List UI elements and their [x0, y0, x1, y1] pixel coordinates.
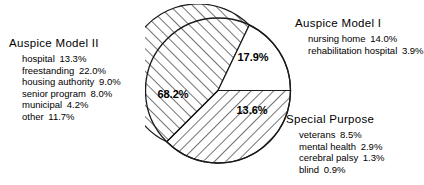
legend-row: rehabilitation hospital 3.9%: [308, 45, 424, 57]
legend-row-label: cerebral palsy: [299, 152, 358, 163]
legend-items-special-purpose: veterans 8.5% mental health 2.9% cerebra…: [286, 129, 384, 175]
legend-row: freestanding 22.0%: [22, 65, 121, 77]
pie-graphic: 17.9% 68.2% 13.6%: [145, 4, 292, 179]
legend-row: other 11.7%: [22, 111, 121, 123]
legend-title-auspice-model-two: Auspice Model II: [9, 36, 121, 50]
legend-items-auspice-model-two: hospital 13.3% freestanding 22.0% housin…: [9, 53, 121, 123]
legend-row-label: rehabilitation hospital: [308, 45, 397, 56]
legend-row-label: veterans: [299, 129, 335, 140]
legend-row-value: 9.0%: [99, 76, 121, 87]
legend-row: veterans 8.5%: [299, 129, 384, 141]
legend-row-label: housing authority: [22, 76, 94, 87]
legend-row: housing authority 9.0%: [22, 76, 121, 88]
legend-row-value: 13.3%: [59, 53, 86, 64]
pie-slice-label-special-purpose: 13.6%: [236, 104, 267, 116]
pie-slice-label-auspice-model-two: 68.2%: [157, 88, 188, 100]
legend-row-value: 14.0%: [370, 33, 397, 44]
legend-row-value: 0.9%: [324, 164, 346, 175]
legend-auspice-model-two: Auspice Model II hospital 13.3% freestan…: [9, 36, 121, 123]
legend-row: hospital 13.3%: [22, 53, 121, 65]
pie-slice-label-auspice-model-one: 17.9%: [237, 51, 268, 63]
legend-row-value: 3.9%: [402, 45, 424, 56]
legend-row: cerebral palsy 1.3%: [299, 152, 384, 164]
legend-row-label: municipal: [22, 99, 62, 110]
legend-title-auspice-model-one: Auspice Model I: [295, 16, 424, 30]
legend-row-value: 8.0%: [91, 88, 113, 99]
legend-row: blind 0.9%: [299, 164, 384, 176]
legend-special-purpose: Special Purpose veterans 8.5% mental hea…: [286, 112, 384, 175]
legend-row-label: hospital: [22, 53, 55, 64]
legend-row-value: 2.9%: [361, 141, 383, 152]
legend-row-label: senior program: [22, 88, 86, 99]
legend-row-value: 4.2%: [67, 99, 89, 110]
legend-row: nursing home 14.0%: [308, 33, 424, 45]
legend-row-label: nursing home: [308, 33, 366, 44]
legend-title-special-purpose: Special Purpose: [286, 112, 384, 126]
legend-row-label: other: [22, 111, 44, 122]
legend-items-auspice-model-one: nursing home 14.0% rehabilitation hospit…: [295, 33, 424, 56]
legend-row-label: mental health: [299, 141, 356, 152]
legend-row: senior program 8.0%: [22, 88, 121, 100]
legend-row-label: blind: [299, 164, 319, 175]
legend-row-value: 8.5%: [340, 129, 362, 140]
legend-row: mental health 2.9%: [299, 141, 384, 153]
legend-row-label: freestanding: [22, 65, 74, 76]
legend-row-value: 1.3%: [363, 152, 385, 163]
legend-auspice-model-one: Auspice Model I nursing home 14.0% rehab…: [295, 16, 424, 56]
legend-row-value: 22.0%: [79, 65, 106, 76]
legend-row-value: 11.7%: [48, 111, 74, 122]
legend-row: municipal 4.2%: [22, 99, 121, 111]
